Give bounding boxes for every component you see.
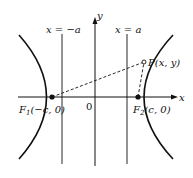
hyperbola-diagram: y x 0 x = −a x = a F1(−c, 0) F2(c, 0) P(… — [0, 0, 193, 178]
focus-f1-label: F1(−c, 0) — [18, 104, 65, 117]
focus-f2-dot — [135, 94, 140, 99]
focus-f2-label: F2(c, 0) — [132, 104, 171, 117]
dashed-line-f1-p — [52, 62, 144, 97]
dashed-line-f2-p — [138, 62, 144, 97]
x-axis-arrow-icon — [171, 95, 178, 100]
point-p-marker — [142, 60, 146, 64]
origin-label: 0 — [86, 101, 92, 112]
x-axis-label: x — [179, 92, 185, 103]
left-line-label: x = −a — [46, 24, 81, 35]
point-p-label: P(x, y) — [147, 57, 180, 68]
focus-f1-dot — [49, 94, 54, 99]
y-axis-label: y — [96, 10, 103, 21]
right-line-label: x = a — [115, 24, 141, 35]
